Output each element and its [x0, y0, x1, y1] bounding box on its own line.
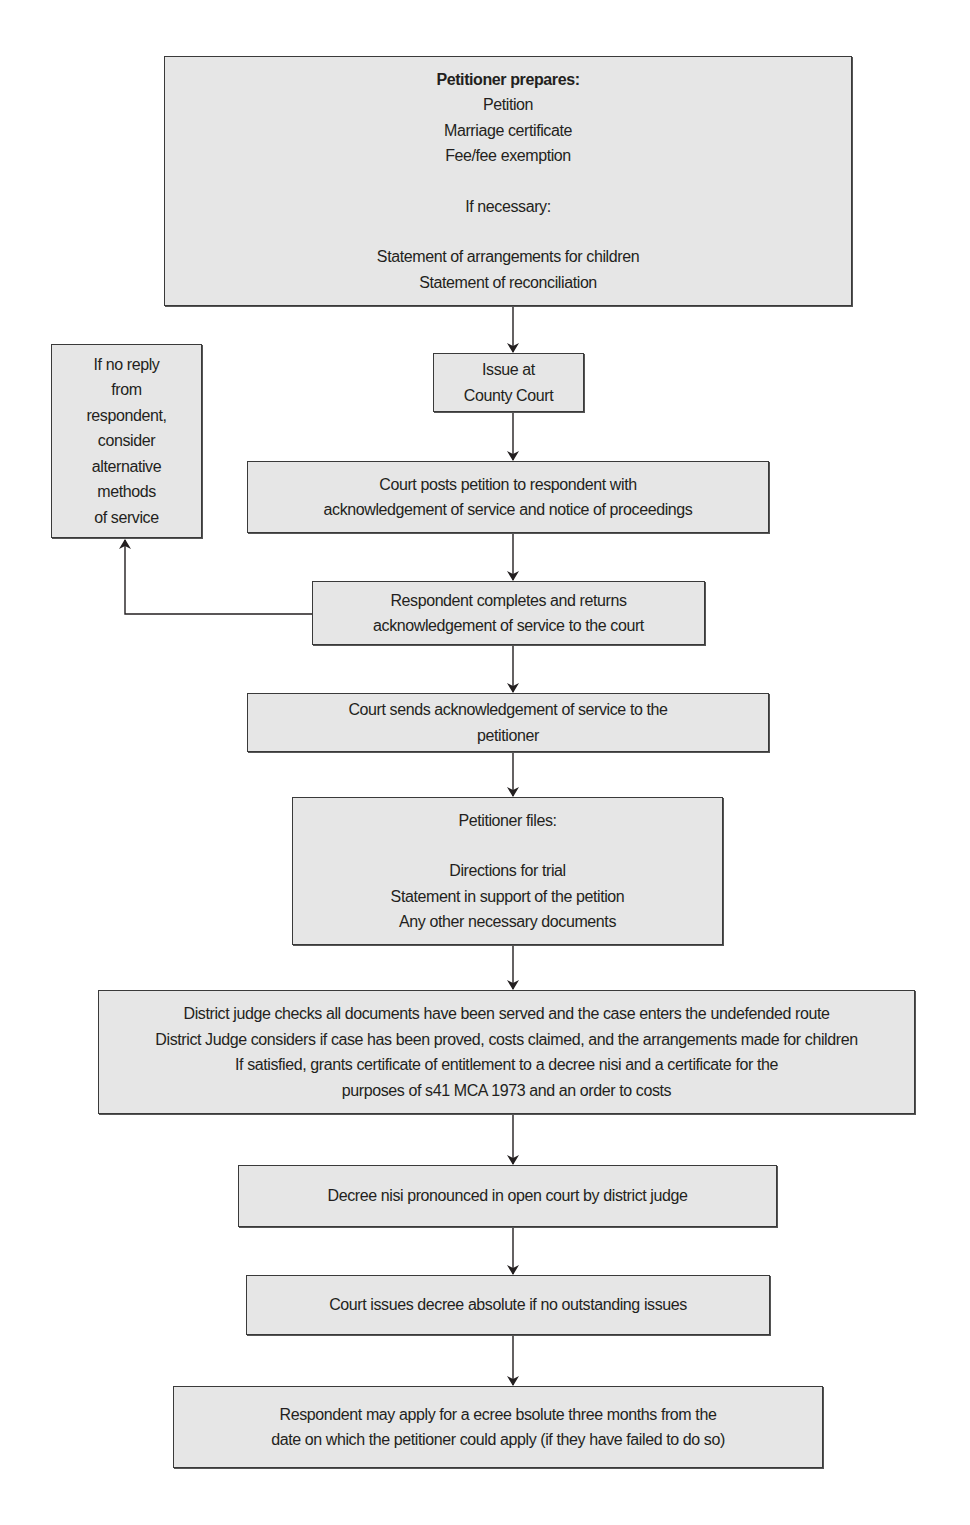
- box-line: If no reply: [94, 352, 160, 378]
- files-title: Petitioner files:: [458, 808, 556, 834]
- no-reply-box: If no reply from respondent, consider al…: [51, 344, 202, 538]
- files-item: Directions for trial: [449, 858, 565, 884]
- prepares-item: Petition: [483, 92, 533, 118]
- box-line: respondent,: [86, 403, 166, 429]
- box-line: acknowledgement of service to the court: [373, 613, 644, 639]
- box-line: alternative: [92, 454, 161, 480]
- box-line: from: [111, 377, 141, 403]
- court-sends-acknowledgement-box: Court sends acknowledgement of service t…: [247, 693, 769, 752]
- box-line: consider: [98, 428, 155, 454]
- box-line: purposes of s41 MCA 1973 and an order to…: [342, 1078, 671, 1104]
- box-line: Court posts petition to respondent with: [379, 472, 636, 498]
- petitioner-files-box: Petitioner files: Directions for trial S…: [292, 797, 723, 945]
- box-line: petitioner: [477, 723, 539, 749]
- box-line: County Court: [464, 383, 553, 409]
- prepares-subtitle: If necessary:: [465, 194, 551, 220]
- issue-county-court-box: Issue at County Court: [433, 353, 584, 412]
- petitioner-prepares-box: Petitioner prepares: Petition Marriage c…: [164, 56, 852, 306]
- prepares-optional-item: Statement of reconciliation: [419, 270, 597, 296]
- arrow-returns-to-no-reply: [125, 540, 312, 614]
- box-line: date on which the petitioner could apply…: [271, 1427, 725, 1453]
- box-line: Decree nisi pronounced in open court by …: [328, 1183, 688, 1209]
- respondent-returns-box: Respondent completes and returns acknowl…: [312, 581, 705, 645]
- district-judge-checks-box: District judge checks all documents have…: [98, 990, 915, 1114]
- box-line: If satisfied, grants certificate of enti…: [235, 1052, 778, 1078]
- prepares-title: Petitioner prepares:: [436, 67, 579, 93]
- prepares-item: Fee/fee exemption: [445, 143, 571, 169]
- box-line: Court sends acknowledgement of service t…: [348, 697, 667, 723]
- box-line: District Judge considers if case has bee…: [155, 1027, 857, 1053]
- box-line: Court issues decree absolute if no outst…: [329, 1292, 687, 1318]
- box-line: methods: [97, 479, 156, 505]
- respondent-may-apply-box: Respondent may apply for a ecree bsolute…: [173, 1386, 823, 1468]
- decree-absolute-box: Court issues decree absolute if no outst…: [246, 1275, 770, 1335]
- files-item: Any other necessary documents: [399, 909, 616, 935]
- box-line: of service: [94, 505, 158, 531]
- box-line: Issue at: [482, 357, 535, 383]
- box-line: District judge checks all documents have…: [184, 1001, 830, 1027]
- decree-nisi-box: Decree nisi pronounced in open court by …: [238, 1165, 777, 1227]
- box-line: Respondent may apply for a ecree bsolute…: [280, 1402, 717, 1428]
- prepares-optional-item: Statement of arrangements for children: [377, 244, 639, 270]
- box-line: acknowledgement of service and notice of…: [324, 497, 693, 523]
- court-posts-petition-box: Court posts petition to respondent with …: [247, 461, 769, 533]
- files-item: Statement in support of the petition: [391, 884, 625, 910]
- prepares-item: Marriage certificate: [444, 118, 572, 144]
- box-line: Respondent completes and returns: [390, 588, 626, 614]
